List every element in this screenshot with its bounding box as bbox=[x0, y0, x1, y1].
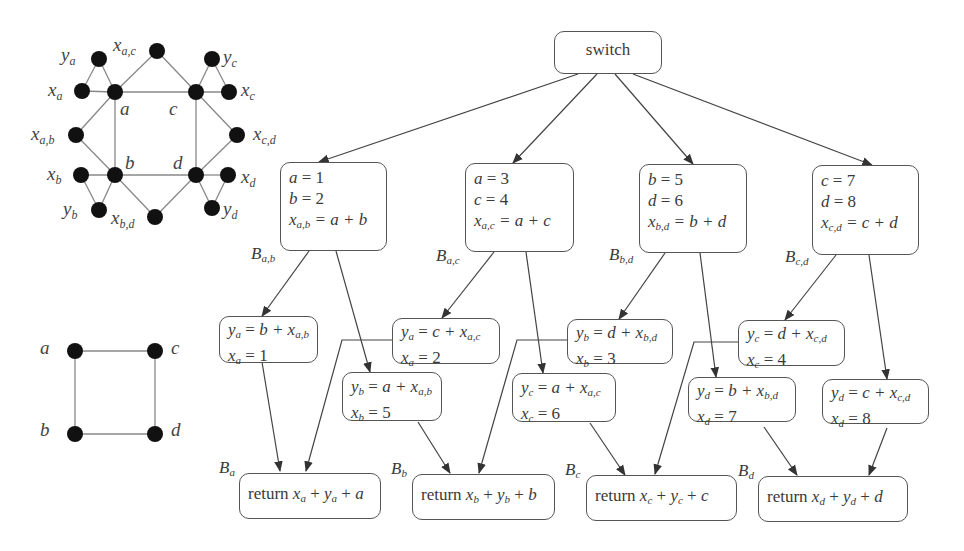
return-a: return xa + ya + a bbox=[239, 473, 381, 519]
node-xa bbox=[74, 83, 90, 99]
diagram-canvas: ya xa,c yc xa xc a c xa,b xc,d b d xb xd… bbox=[0, 0, 964, 551]
sq-label-c: c bbox=[171, 337, 179, 359]
label-yb: yb bbox=[63, 198, 77, 223]
node-c bbox=[188, 84, 204, 100]
label-xab: xa,b bbox=[31, 123, 54, 148]
sq-label-b: b bbox=[40, 419, 50, 441]
copy-yd-bd: yd = b + xb,d xd = 7 bbox=[688, 377, 796, 422]
label-a: a bbox=[120, 98, 130, 120]
copy-yd-cd: yd = c + xc,d xd = 8 bbox=[822, 379, 929, 424]
sq-label-d: d bbox=[171, 419, 181, 441]
node-xc bbox=[221, 84, 237, 100]
switch-node: switch bbox=[554, 31, 662, 74]
node-yc bbox=[204, 51, 220, 67]
label-d: d bbox=[173, 152, 183, 174]
label-B-a: Ba bbox=[219, 458, 235, 478]
node-b bbox=[107, 167, 123, 183]
label-ya: ya bbox=[61, 44, 75, 69]
copy-yc-ac: yc = a + xa,c xc = 6 bbox=[512, 373, 616, 422]
copy-yb-ab: yb = a + xa,b xb = 5 bbox=[342, 372, 442, 421]
block-ab: a = 1 b = 2 xa,b = a + b bbox=[280, 162, 387, 251]
label-xac: xa,c bbox=[113, 34, 136, 59]
node-yd bbox=[204, 200, 220, 216]
node-xab bbox=[68, 127, 84, 143]
node-xbd bbox=[147, 209, 163, 225]
bottom-graph-nodes bbox=[67, 343, 163, 442]
block-bd: b = 5 d = 6 xb,d = b + d bbox=[639, 164, 747, 253]
node-xcd bbox=[229, 127, 245, 143]
label-B-b: Bb bbox=[391, 459, 407, 479]
switch-label: switch bbox=[586, 40, 630, 59]
label-B-ac: Ba,c bbox=[436, 246, 460, 266]
label-xb: xb bbox=[47, 163, 61, 188]
sq-label-a: a bbox=[40, 337, 50, 359]
label-xa: xa bbox=[48, 79, 62, 104]
label-xc: xc bbox=[241, 79, 255, 104]
label-B-d: Bd bbox=[738, 461, 754, 481]
bottom-graph-edges bbox=[75, 351, 155, 434]
label-yc: yc bbox=[223, 46, 237, 71]
node-yb bbox=[91, 202, 107, 218]
label-xd: xd bbox=[241, 166, 255, 191]
label-xbd: xb,d bbox=[111, 207, 134, 232]
node-d bbox=[188, 167, 204, 183]
return-d: return xd + yd + d bbox=[758, 476, 908, 522]
label-yd: yd bbox=[223, 198, 237, 223]
top-graph-edges bbox=[76, 51, 237, 217]
copy-yb-bd: yb = d + xb,d xb = 3 bbox=[567, 319, 673, 364]
label-c: c bbox=[169, 98, 177, 120]
node-ya bbox=[91, 51, 107, 67]
return-c: return xc + yc + c bbox=[586, 475, 737, 521]
block-cd: c = 7 d = 8 xc,d = c + d bbox=[812, 165, 919, 255]
label-B-ab: Ba,b bbox=[251, 244, 275, 264]
label-xcd: xc,d bbox=[253, 123, 276, 148]
label-B-bd: Bb,d bbox=[609, 245, 633, 265]
block-ac: a = 3 c = 4 xa,c = a + c bbox=[465, 163, 574, 252]
node-xac bbox=[149, 43, 165, 59]
return-b: return xb + yb + b bbox=[412, 474, 555, 520]
copy-ya-ac: ya = c + xa,c xa = 2 bbox=[392, 318, 500, 364]
node-xb bbox=[73, 167, 89, 183]
label-b: b bbox=[125, 152, 135, 174]
copy-ya-ab: ya = b + xa,b xa = 1 bbox=[219, 316, 318, 363]
label-B-c: Bc bbox=[565, 460, 580, 480]
edges-layer bbox=[0, 0, 964, 551]
label-B-cd: Bc,d bbox=[785, 247, 809, 267]
node-xd bbox=[220, 167, 236, 183]
copy-yc-cd: yc = d + xc,d xc = 4 bbox=[738, 320, 845, 366]
